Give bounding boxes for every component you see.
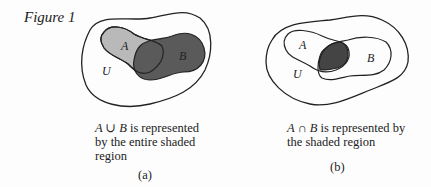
label-u: U (293, 67, 303, 81)
label-a: A (298, 38, 307, 52)
label-a: A (120, 39, 129, 53)
panel-label-a: (a) (138, 168, 152, 183)
expression-intersection: A ∩ B (287, 121, 317, 135)
venn-union-diagram: A B U (82, 13, 211, 107)
venn-diagrams: A B U A B U (0, 0, 431, 187)
caption-union: A ∪ B is represented by the entire shade… (95, 121, 205, 163)
panel-label-b: (b) (330, 160, 345, 175)
expression-union: A ∪ B (95, 121, 127, 135)
label-u: U (102, 64, 112, 78)
label-b: B (179, 49, 187, 63)
venn-intersection-diagram: A B U (266, 16, 408, 105)
caption-intersection: A ∩ B is represented by the shaded regio… (287, 121, 407, 149)
label-b: B (367, 51, 375, 65)
